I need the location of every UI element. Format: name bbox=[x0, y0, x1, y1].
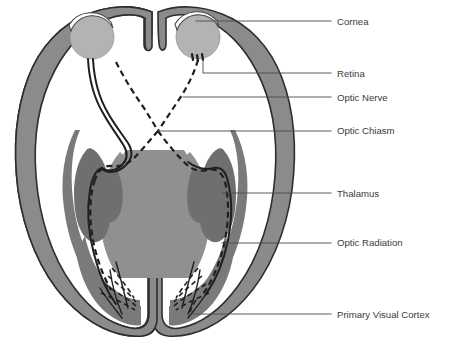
label-optic-chiasm: Optic Chiasm bbox=[337, 125, 395, 136]
thalamus-right-inner bbox=[187, 168, 214, 223]
label-cornea: Cornea bbox=[337, 16, 369, 27]
thalamus-left-inner bbox=[96, 172, 123, 222]
optic-nerve-left-dashed bbox=[116, 62, 158, 131]
label-thalamus: Thalamus bbox=[337, 188, 379, 199]
label-retina: Retina bbox=[337, 68, 365, 79]
label-optic-nerve: Optic Nerve bbox=[337, 92, 388, 103]
brain-visual-pathway-diagram: Cornea Retina Optic Nerve Optic Chiasm T… bbox=[0, 0, 456, 343]
label-optic-radiation: Optic Radiation bbox=[337, 237, 403, 248]
midline-core bbox=[110, 150, 201, 278]
visual-pathway-figure: Cornea Retina Optic Nerve Optic Chiasm T… bbox=[0, 0, 456, 343]
optic-nerve-right-dashed bbox=[158, 60, 198, 131]
label-primary-visual-cortex: Primary Visual Cortex bbox=[337, 309, 430, 320]
